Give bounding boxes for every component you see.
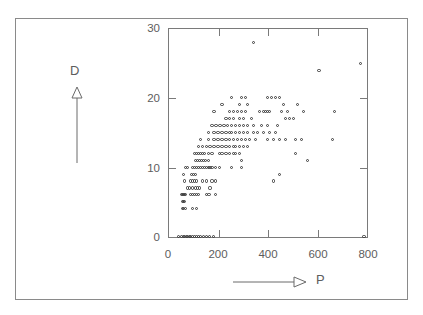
data-point-marker <box>214 193 217 196</box>
y-axis-tick-left <box>169 98 176 99</box>
xtick-label-600: 600 <box>298 248 338 260</box>
data-point-marker <box>260 124 263 127</box>
data-point-marker <box>294 138 297 141</box>
data-point-marker <box>214 124 217 127</box>
x-axis-arrow-icon <box>232 274 308 290</box>
data-point-marker <box>270 96 273 99</box>
x-axis-tick-top <box>318 29 319 36</box>
data-point-marker <box>186 166 189 169</box>
data-point-marker <box>216 138 219 141</box>
data-point-marker <box>224 117 227 120</box>
data-point-marker <box>242 131 245 134</box>
data-point-marker <box>214 179 217 182</box>
data-point-marker <box>252 131 255 134</box>
data-point-marker <box>208 145 211 148</box>
data-point-marker <box>272 138 275 141</box>
data-point-marker <box>228 117 231 120</box>
y-axis-label: D <box>70 63 79 78</box>
data-point-marker <box>274 96 277 99</box>
data-point-marker <box>238 152 241 155</box>
data-point-marker <box>216 145 219 148</box>
ytick-label-30: 30 <box>130 22 160 34</box>
data-point-marker <box>246 131 249 134</box>
data-point-marker <box>203 152 206 155</box>
ytick-label-20: 20 <box>130 92 160 104</box>
data-point-marker <box>238 124 241 127</box>
data-point-marker <box>252 41 255 44</box>
data-point-marker <box>242 117 245 120</box>
data-point-marker <box>220 145 223 148</box>
data-point-marker <box>224 138 227 141</box>
data-point-marker <box>242 145 245 148</box>
ytick-label-0: 0 <box>130 231 160 243</box>
data-point-marker <box>240 96 243 99</box>
ytick-label-10: 10 <box>130 162 160 174</box>
data-point-marker <box>294 152 297 155</box>
data-point-marker <box>278 138 281 141</box>
data-point-marker <box>232 138 235 141</box>
data-point-marker <box>205 145 208 148</box>
data-point-marker <box>212 235 215 238</box>
data-point-marker <box>214 166 217 169</box>
data-point-marker <box>331 138 334 141</box>
data-point-marker <box>210 124 213 127</box>
x-axis-tick-top <box>219 29 220 36</box>
data-point-marker <box>240 166 243 169</box>
data-point-marker <box>254 138 257 141</box>
x-axis-tick-bottom <box>219 230 220 237</box>
data-point-marker <box>244 96 247 99</box>
data-point-marker <box>226 124 229 127</box>
data-point-marker <box>230 131 233 134</box>
data-point-marker <box>278 96 281 99</box>
data-point-marker <box>238 117 241 120</box>
data-point-marker <box>207 138 210 141</box>
data-point-marker <box>183 179 186 182</box>
data-point-marker <box>218 166 221 169</box>
data-point-marker <box>238 145 241 148</box>
data-point-marker <box>207 159 210 162</box>
data-point-marker <box>182 173 185 176</box>
data-point-marker <box>258 110 261 113</box>
data-point-marker <box>228 110 231 113</box>
x-axis-tick-bottom <box>318 230 319 237</box>
data-point-marker <box>208 235 211 238</box>
data-point-marker <box>317 69 320 72</box>
data-point-marker <box>236 138 239 141</box>
data-point-marker <box>230 166 233 169</box>
data-point-marker <box>230 96 233 99</box>
xtick-label-200: 200 <box>198 248 238 260</box>
data-point-marker <box>220 103 223 106</box>
y-axis-tick-right <box>360 168 367 169</box>
data-point-marker <box>234 131 237 134</box>
data-point-marker <box>212 110 215 113</box>
data-point-marker <box>234 152 237 155</box>
data-point-marker <box>240 110 243 113</box>
y-axis-arrow-icon <box>68 85 86 165</box>
y-axis-tick-right <box>360 98 367 99</box>
data-point-marker <box>232 110 235 113</box>
data-point-marker <box>232 117 235 120</box>
data-point-marker <box>362 235 365 238</box>
data-point-marker <box>278 173 281 176</box>
data-point-marker <box>210 152 213 155</box>
data-point-marker <box>224 145 227 148</box>
data-point-marker <box>246 124 249 127</box>
data-point-marker <box>272 179 275 182</box>
data-point-marker <box>266 124 269 127</box>
data-point-marker <box>220 152 223 155</box>
data-point-marker <box>248 138 251 141</box>
data-point-marker <box>195 179 198 182</box>
data-point-marker <box>262 131 265 134</box>
data-point-marker <box>207 152 210 155</box>
data-point-marker <box>220 131 223 134</box>
data-point-marker <box>236 110 239 113</box>
data-point-marker <box>198 186 201 189</box>
data-point-marker <box>274 131 277 134</box>
xtick-label-0: 0 <box>148 248 188 260</box>
data-point-marker <box>224 152 227 155</box>
data-point-marker <box>240 159 243 162</box>
data-point-marker <box>240 138 243 141</box>
data-point-marker <box>266 138 269 141</box>
data-point-marker <box>268 131 271 134</box>
data-point-marker <box>220 138 223 141</box>
